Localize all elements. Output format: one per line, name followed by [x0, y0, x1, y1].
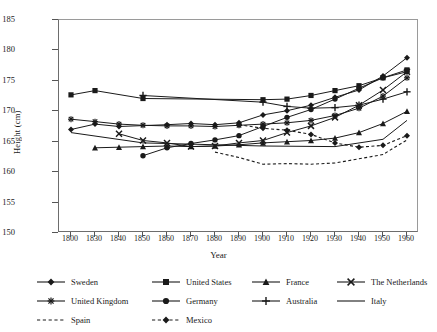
legend-label: Australia — [281, 296, 317, 306]
legend-item-italy[interactable]: Italy — [336, 294, 387, 308]
legend-item-germany[interactable]: Germany — [151, 294, 218, 308]
legend-marker-cross-icon — [336, 275, 366, 289]
legend-label: The Netherlands — [366, 277, 427, 287]
legend-item-mexico[interactable]: Mexico — [151, 313, 212, 327]
y-tick-label: 155 — [0, 197, 15, 207]
series-the-netherlands — [116, 69, 410, 150]
chart-legend: SwedenUnited StatesFranceThe Netherlands… — [36, 272, 426, 329]
y-tick-mark — [52, 232, 58, 233]
legend-row: United KingdomGermanyAustraliaItaly — [36, 291, 426, 310]
legend-marker-plus-icon — [251, 294, 281, 308]
legend-label: Germany — [181, 296, 218, 306]
series-spain — [215, 140, 407, 164]
y-tick-label: 150 — [0, 227, 15, 237]
y-tick-label: 185 — [0, 14, 15, 24]
series-australia — [139, 88, 410, 112]
legend-marker-diamond-icon — [36, 275, 66, 289]
legend-label: Mexico — [181, 315, 212, 325]
y-tick-label: 170 — [0, 105, 15, 115]
legend-label: France — [281, 277, 309, 287]
legend-item-sweden[interactable]: Sweden — [36, 275, 98, 289]
legend-row: SpainMexico — [36, 310, 426, 329]
legend-item-spain[interactable]: Spain — [36, 313, 90, 327]
legend-item-france[interactable]: France — [251, 275, 309, 289]
y-tick-label: 165 — [0, 136, 15, 146]
legend-marker-none-icon — [36, 313, 66, 327]
plot-area — [58, 19, 418, 232]
legend-row: SwedenUnited StatesFranceThe Netherlands — [36, 272, 426, 291]
y-tick-label: 180 — [0, 44, 15, 54]
legend-marker-square-icon — [151, 275, 181, 289]
legend-marker-diamond-icon — [151, 313, 181, 327]
legend-label: Sweden — [66, 277, 98, 287]
series-france — [92, 108, 410, 150]
legend-item-the-netherlands[interactable]: The Netherlands — [336, 275, 427, 289]
legend-item-united-states[interactable]: United States — [151, 275, 232, 289]
series-lines — [59, 20, 419, 233]
y-tick-label: 175 — [0, 75, 15, 85]
legend-marker-circle-icon — [151, 294, 181, 308]
legend-label: Italy — [366, 296, 387, 306]
legend-marker-triangle-icon — [251, 275, 281, 289]
legend-marker-none-icon — [336, 294, 366, 308]
y-axis-title: Height (cm) — [10, 92, 24, 172]
series-united-states — [68, 67, 409, 102]
height-by-year-line-chart: Height (cm) 185180175170165160155150 180… — [0, 0, 437, 332]
legend-label: United States — [181, 277, 232, 287]
legend-marker-asterisk-icon — [36, 294, 66, 308]
legend-item-united-kingdom[interactable]: United Kingdom — [36, 294, 128, 308]
x-axis-title: Year — [0, 250, 437, 260]
legend-item-australia[interactable]: Australia — [251, 294, 317, 308]
y-tick-label: 160 — [0, 166, 15, 176]
series-sweden — [68, 55, 410, 133]
legend-label: United Kingdom — [66, 296, 128, 306]
legend-label: Spain — [66, 315, 90, 325]
